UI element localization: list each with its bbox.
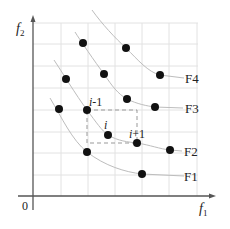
point-i <box>104 131 112 139</box>
front-label-f4: F4 <box>185 71 199 86</box>
point-f2-0 <box>62 75 70 83</box>
label-i-plus-1: i+1 <box>129 127 145 141</box>
point-f3-2 <box>123 95 131 103</box>
label-i-minus-1: i-1 <box>89 95 102 109</box>
front-label-f1: F1 <box>184 169 198 184</box>
y-axis-label: f2 <box>16 21 24 38</box>
front-label-f2: F2 <box>184 144 198 159</box>
point-f1-0 <box>55 105 63 113</box>
y-axis-arrow-icon <box>31 15 36 22</box>
point-f4-0 <box>122 44 130 52</box>
point-f4-1 <box>156 71 164 79</box>
front-curves <box>50 10 184 176</box>
point-f3-0 <box>79 39 87 47</box>
pareto-front-diagram: F4 F3 F2 F1 i-1 i i+1 f2 f1 0 <box>0 0 230 229</box>
point-f1-2 <box>138 170 146 178</box>
point-f3-1 <box>100 70 108 78</box>
x-axis-label: f1 <box>199 201 207 218</box>
label-i: i <box>104 118 107 132</box>
point-f3-3 <box>151 103 159 111</box>
point-f2-4 <box>166 146 174 154</box>
point-f1-1 <box>83 148 91 156</box>
origin-label: 0 <box>22 199 28 213</box>
x-axis-arrow-icon <box>209 194 216 199</box>
front-label-f3: F3 <box>185 101 199 116</box>
